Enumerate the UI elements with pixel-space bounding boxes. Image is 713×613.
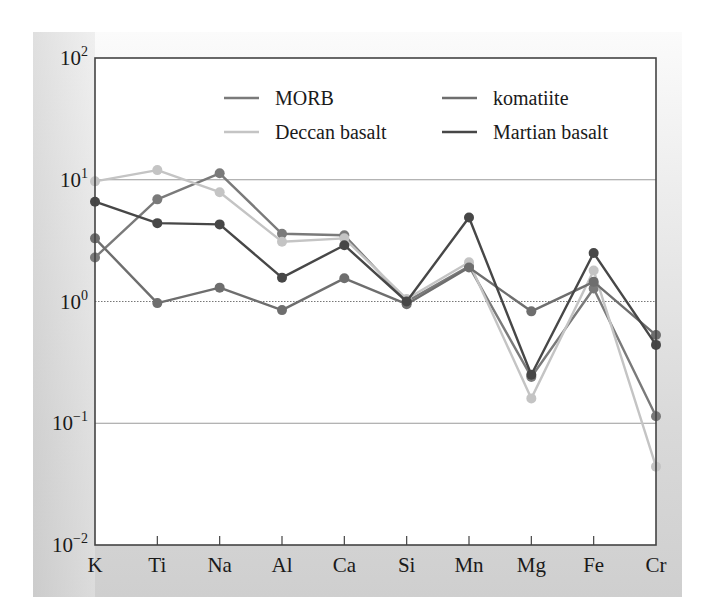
x-tick-label: Ti bbox=[148, 553, 166, 577]
x-tick-label: Mg bbox=[517, 553, 547, 577]
x-tick-label: Si bbox=[398, 553, 416, 577]
data-point bbox=[152, 194, 162, 204]
y-tick-label: 100 bbox=[60, 288, 88, 314]
data-point bbox=[464, 263, 474, 273]
data-point bbox=[277, 305, 287, 315]
data-point bbox=[526, 393, 536, 403]
data-point bbox=[152, 218, 162, 228]
y-tick-label: 10−1 bbox=[52, 409, 88, 435]
data-point bbox=[152, 298, 162, 308]
legend-label-deccan-basalt: Deccan basalt bbox=[275, 121, 387, 143]
data-point bbox=[589, 265, 599, 275]
data-point bbox=[402, 297, 412, 307]
data-point bbox=[215, 168, 225, 178]
y-tick-label: 101 bbox=[60, 166, 88, 192]
x-tick-label: Fe bbox=[583, 553, 604, 577]
data-point bbox=[526, 306, 536, 316]
data-point bbox=[277, 237, 287, 247]
y-axis-labels: 10210110010−110−2 bbox=[52, 44, 88, 557]
legend-label-martian-basalt: Martian basalt bbox=[493, 121, 608, 143]
data-point bbox=[589, 248, 599, 258]
data-point bbox=[464, 212, 474, 222]
x-tick-label: Ca bbox=[333, 553, 357, 577]
x-tick-label: Mn bbox=[454, 553, 484, 577]
data-point bbox=[339, 273, 349, 283]
legend-label-komatiite: komatiite bbox=[493, 87, 569, 109]
data-point bbox=[215, 283, 225, 293]
x-tick-label: K bbox=[87, 553, 102, 577]
chart: 10210110010−110−2 KTiNaAlCaSiMnMgFeCr MO… bbox=[0, 0, 713, 613]
x-axis-labels: KTiNaAlCaSiMnMgFeCr bbox=[87, 553, 666, 577]
x-tick-label: Na bbox=[207, 553, 232, 577]
y-tick-label: 10−2 bbox=[52, 531, 88, 557]
data-point bbox=[215, 219, 225, 229]
data-point bbox=[277, 273, 287, 283]
legend-label-morb: MORB bbox=[275, 87, 334, 109]
x-tick-label: Cr bbox=[646, 553, 667, 577]
data-point bbox=[215, 187, 225, 197]
data-point bbox=[339, 240, 349, 250]
data-point bbox=[526, 370, 536, 380]
data-point bbox=[589, 277, 599, 287]
x-tick-label: Al bbox=[272, 553, 293, 577]
y-tick-label: 102 bbox=[60, 44, 88, 70]
data-point bbox=[152, 165, 162, 175]
